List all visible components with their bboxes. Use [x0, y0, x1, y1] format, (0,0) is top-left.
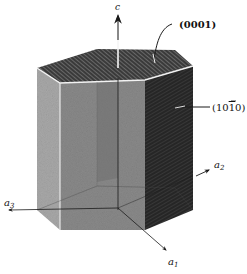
- a3-axis-label: a3: [4, 197, 15, 210]
- basal-plane-label: (0001): [179, 19, 216, 30]
- a2-axis-label: a2: [214, 159, 225, 172]
- front-face-shade: [97, 81, 118, 182]
- a1-axis-label: a1: [168, 256, 178, 269]
- hexagonal-prism-diagram: c (0001) (1010) a3 a2 a1: [0, 0, 247, 274]
- right-prism-face-10-10: [145, 66, 193, 230]
- a2-axis-arrow: [196, 170, 209, 176]
- prism-plane-label: (1010): [212, 102, 245, 113]
- c-axis-label: c: [115, 2, 120, 12]
